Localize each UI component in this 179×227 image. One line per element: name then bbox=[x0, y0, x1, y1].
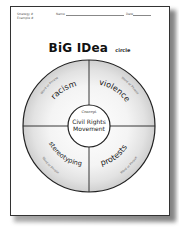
center-caption: Concept bbox=[81, 110, 97, 114]
center-line2: Movement bbox=[73, 125, 105, 132]
big-idea-circle-diagram: Concept Civil Rights Movement Word or Ph… bbox=[0, 0, 179, 227]
